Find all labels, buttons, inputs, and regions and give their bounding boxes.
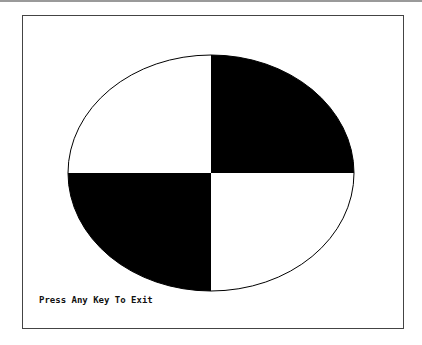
quadrant-ellipse	[0, 0, 422, 345]
quadrant-top-left	[68, 55, 211, 173]
quadrant-bottom-right	[211, 173, 354, 291]
quadrant-bottom-left	[68, 173, 211, 291]
quadrant-top-right	[211, 55, 354, 173]
exit-prompt: Press Any Key To Exit	[39, 295, 153, 305]
